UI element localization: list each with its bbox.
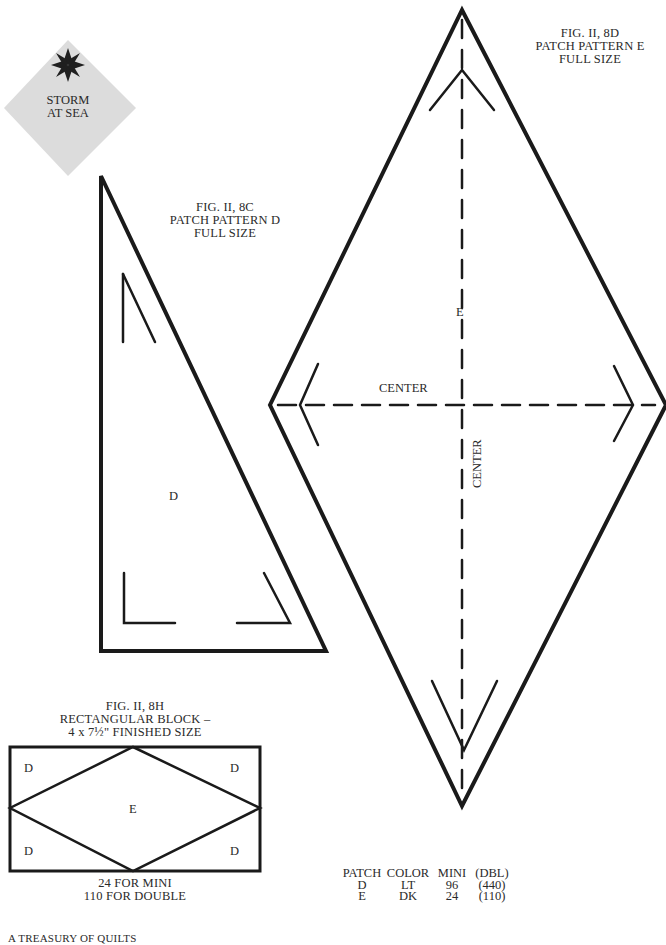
badge-title: STORM AT SEA (38, 94, 98, 120)
figure-8c-size: FULL SIZE (150, 227, 300, 240)
cell-patch: E (340, 891, 384, 903)
block-label-center: E (129, 802, 137, 817)
block-label-top-left: D (24, 761, 33, 776)
figure-8d-caption: FIG. II, 8D PATCH PATTERN E FULL SIZE (515, 27, 665, 66)
eight-point-star-icon (51, 48, 85, 82)
block-label-top-right: D (230, 761, 239, 776)
book-footer: A TREASURY OF QUILTS (8, 932, 137, 944)
figure-8h-size: 4 x 7½" FINISHED SIZE (40, 726, 230, 739)
patch-d-label: D (169, 489, 178, 504)
figure-8h-caption: FIG. II, 8H RECTANGULAR BLOCK – 4 x 7½" … (40, 700, 230, 739)
pattern-line-art (0, 0, 666, 945)
block-quantity-note: 24 FOR MINI 110 FOR DOUBLE (60, 877, 210, 903)
patch-e-label: E (456, 305, 464, 320)
block-note-double: 110 FOR DOUBLE (60, 890, 210, 903)
block-label-bottom-left: D (24, 844, 33, 859)
patch-table-row: E DK 24 (110) (340, 891, 512, 903)
cell-color: DK (384, 891, 432, 903)
patch-e-template (270, 10, 666, 806)
vertical-center-label: CENTER (470, 439, 485, 488)
block-label-bottom-right: D (230, 844, 239, 859)
horizontal-center-label: CENTER (379, 381, 428, 396)
cell-dbl: (110) (472, 891, 512, 903)
cell-mini: 24 (432, 891, 472, 903)
figure-8c-caption: FIG. II, 8C PATCH PATTERN D FULL SIZE (150, 201, 300, 240)
patch-d-template (101, 176, 326, 651)
figure-8d-size: FULL SIZE (515, 53, 665, 66)
badge-title-line2: AT SEA (38, 107, 98, 120)
patch-table: PATCH COLOR MINI (DBL) D LT 96 (440) E D… (340, 868, 512, 903)
